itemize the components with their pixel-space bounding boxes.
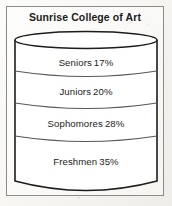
chart-figure: Sunrise College of Art Seniors17% Junior… <box>0 0 172 206</box>
segment-label-juniors: Juniors20% <box>0 86 172 97</box>
segment-name-juniors: Juniors <box>59 86 91 97</box>
cylinder-top-ellipse <box>15 32 157 49</box>
segment-value-sophomores: 28% <box>105 118 125 129</box>
segment-name-freshmen: Freshmen <box>53 156 97 167</box>
segment-value-freshmen: 35% <box>99 156 119 167</box>
segment-value-juniors: 20% <box>93 86 113 97</box>
cylinder-chart-graphic <box>0 0 172 206</box>
segment-name-seniors: Seniors <box>59 57 92 68</box>
segment-name-sophomores: Sophomores <box>48 118 103 129</box>
segment-label-seniors: Seniors17% <box>0 57 172 68</box>
segment-label-freshmen: Freshmen35% <box>0 156 172 167</box>
segment-label-sophomores: Sophomores28% <box>0 118 172 129</box>
segment-value-seniors: 17% <box>94 57 114 68</box>
